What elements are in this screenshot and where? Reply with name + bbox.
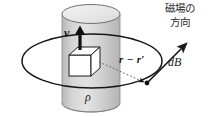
field-direction-line-2: 方向: [151, 17, 209, 28]
field-direction-line-1: 磁場の: [165, 2, 195, 14]
velocity-label: v: [64, 27, 69, 39]
charge-element-cube: [69, 47, 100, 76]
cylinder-top: [62, 5, 120, 24]
charge-density-label: ρ: [85, 91, 91, 103]
separation-vector-label: r − r′: [119, 54, 145, 65]
db-label: dB: [168, 56, 181, 68]
figure-container: v r − r′ dB ρ 磁場の 方向: [0, 0, 215, 116]
field-direction-label: 磁場の 方向: [151, 3, 209, 27]
